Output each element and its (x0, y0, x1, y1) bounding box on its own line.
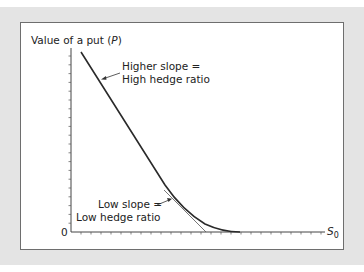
annotation-high-line1: Higher slope = (122, 60, 200, 72)
put-value-chart: Value of a put (P) 0 S0 Higher slope = H… (0, 0, 364, 272)
arrow-head-icon (101, 76, 107, 80)
origin-label: 0 (61, 226, 68, 238)
annotation-low-line2: Low hedge ratio (76, 211, 160, 223)
y-axis (69, 48, 72, 232)
annotation-low-slope: Low slope = Low hedge ratio (76, 198, 172, 223)
x-axis-label: S0 (327, 225, 339, 240)
tangent-line (164, 190, 206, 232)
annotation-high-slope: Higher slope = High hedge ratio (101, 60, 210, 85)
annotation-low-line1: Low slope = (98, 198, 162, 210)
annotation-high-line2: High hedge ratio (122, 73, 210, 85)
chart-title: Value of a put (P) (31, 34, 122, 46)
x-axis (71, 232, 325, 235)
arrow-head-icon (167, 198, 172, 202)
